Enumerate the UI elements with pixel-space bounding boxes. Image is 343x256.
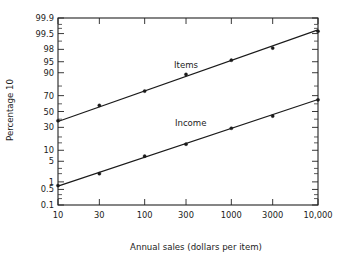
data-point-marker	[271, 114, 274, 117]
y-tick-label: 0.1	[41, 200, 54, 210]
y-tick-label: 10	[43, 145, 54, 155]
data-point-marker	[143, 155, 146, 158]
probability-plot-svg: 99.999.598959070503010510.50.1 103010030…	[0, 0, 343, 256]
y-axis-title: Percentage 10	[5, 79, 15, 141]
data-point-marker	[316, 30, 319, 33]
chart-figure-root: 99.999.598959070503010510.50.1 103010030…	[0, 0, 343, 256]
data-point-marker	[184, 143, 187, 146]
x-tick-label: 30	[94, 210, 105, 220]
data-point-marker	[56, 119, 59, 122]
y-tick-label: 90	[43, 68, 54, 78]
data-point-marker	[56, 184, 59, 187]
data-point-marker	[316, 98, 319, 101]
data-point-marker	[271, 46, 274, 49]
x-tick-label: 1000	[221, 210, 242, 220]
series-annotation-label: Income	[175, 118, 207, 128]
series-fit-line	[58, 99, 318, 186]
y-axis-ticks	[58, 18, 318, 205]
x-axis-ticks	[58, 18, 318, 205]
data-point-marker	[184, 73, 187, 76]
y-tick-label: 98	[43, 44, 54, 54]
x-tick-label: 10	[53, 210, 64, 220]
data-point-marker	[98, 104, 101, 107]
y-tick-label: 50	[43, 107, 54, 117]
x-tick-label: 10,000	[303, 210, 332, 220]
data-point-marker	[143, 89, 146, 92]
y-tick-label: 70	[43, 91, 54, 101]
data-point-marker	[230, 127, 233, 130]
series-fit-line	[58, 30, 318, 122]
y-tick-label: 99.5	[36, 29, 54, 39]
x-axis-tick-labels: 10301003001000300010,000	[53, 210, 333, 220]
plot-frame	[58, 18, 318, 205]
series-annotation-label: Items	[174, 60, 199, 70]
x-tick-label: 3000	[262, 210, 283, 220]
y-tick-label: 95	[43, 57, 54, 67]
x-tick-label: 100	[137, 210, 153, 220]
x-axis-title: Annual sales (dollars per item)	[130, 242, 262, 252]
y-tick-label: 99.9	[36, 13, 54, 23]
x-tick-label: 300	[178, 210, 194, 220]
y-tick-label: 0.5	[41, 184, 54, 194]
y-axis-tick-labels: 99.999.598959070503010510.50.1	[36, 13, 54, 210]
y-tick-label: 30	[43, 122, 54, 132]
y-tick-label: 5	[49, 156, 54, 166]
data-point-marker	[98, 172, 101, 175]
series-annotations-group: ItemsIncome	[174, 60, 207, 128]
series-lines-group	[58, 30, 318, 186]
data-point-marker	[230, 59, 233, 62]
